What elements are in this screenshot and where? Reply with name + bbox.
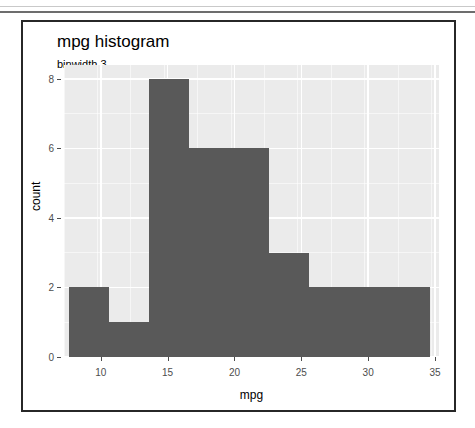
y-tick-label: 4	[48, 212, 54, 223]
y-axis: 02468	[37, 65, 62, 357]
gridline-x-minor	[431, 65, 432, 357]
x-tick-label: 35	[429, 367, 440, 378]
histogram-bar	[149, 79, 189, 357]
x-tick-label: 30	[363, 367, 374, 378]
histogram-bar	[109, 322, 149, 357]
plot-card: mpg histogram binwidth 3 02468 101520253…	[21, 20, 456, 412]
gridline-y	[64, 78, 439, 80]
page-title: mpg histogram	[57, 32, 169, 52]
y-tick-mark	[57, 148, 61, 149]
y-tick-mark	[57, 79, 61, 80]
y-tick-label: 8	[48, 73, 54, 84]
x-tick-label: 15	[162, 367, 173, 378]
x-tick-mark	[301, 357, 302, 361]
y-tick-label: 0	[48, 352, 54, 363]
gridline-x-minor	[130, 65, 131, 357]
x-tick-mark	[435, 357, 436, 361]
y-tick-mark	[57, 357, 61, 358]
x-axis: 101520253035	[64, 357, 439, 383]
x-tick-mark	[101, 357, 102, 361]
y-tick-mark	[57, 218, 61, 219]
histogram-bar	[229, 148, 269, 357]
x-tick-label: 20	[229, 367, 240, 378]
y-axis-title: count	[29, 182, 43, 211]
top-divider-line	[0, 6, 475, 7]
top-divider-line-secondary	[0, 11, 475, 13]
y-tick-mark	[57, 287, 61, 288]
x-tick-mark	[368, 357, 369, 361]
x-tick-label: 10	[95, 367, 106, 378]
gridline-x	[434, 65, 436, 357]
y-tick-label: 2	[48, 282, 54, 293]
x-tick-label: 25	[296, 367, 307, 378]
histogram-bar	[269, 253, 309, 357]
histogram-bar	[349, 287, 389, 357]
histogram-bar	[390, 287, 430, 357]
histogram-bar	[69, 287, 109, 357]
x-tick-mark	[234, 357, 235, 361]
histogram-bar	[309, 287, 349, 357]
x-tick-mark	[168, 357, 169, 361]
plot-panel	[64, 65, 439, 357]
y-tick-label: 6	[48, 143, 54, 154]
gridline-y-minor	[64, 113, 439, 114]
histogram-bar	[189, 148, 229, 357]
x-axis-title: mpg	[64, 388, 439, 402]
gridline-x-minor	[64, 65, 65, 357]
plot-inner: mpg histogram binwidth 3 02468 101520253…	[23, 22, 454, 410]
